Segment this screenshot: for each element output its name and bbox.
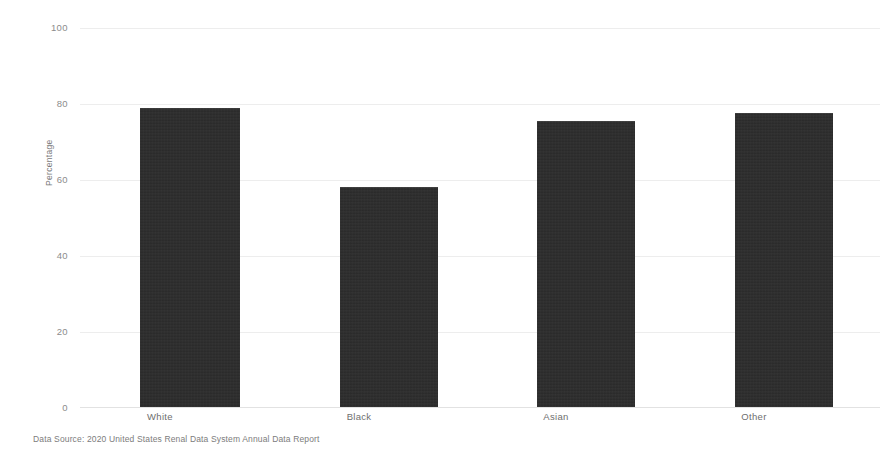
plot-area <box>80 28 880 408</box>
y-tick-label-100: 100 <box>28 23 68 33</box>
data-source-caption: Data Source: 2020 United States Renal Da… <box>33 434 320 444</box>
bar-asian[interactable] <box>537 121 635 407</box>
y-tick-label-20: 20 <box>28 327 68 337</box>
gridline-baseline-0 <box>80 407 880 408</box>
x-tick-label-asian: Asian <box>507 412 605 422</box>
bar-black[interactable] <box>340 187 438 407</box>
bar-other[interactable] <box>735 113 833 407</box>
x-tick-label-black: Black <box>310 412 408 422</box>
x-tick-label-white: White <box>110 412 210 422</box>
bar-chart-figure: 100 80 60 40 20 0 Percentage White Black… <box>0 0 889 452</box>
gridline-100 <box>80 28 880 29</box>
y-tick-label-80: 80 <box>28 99 68 109</box>
y-tick-label-0: 0 <box>28 403 68 413</box>
bar-white[interactable] <box>140 108 240 407</box>
gridline-80 <box>80 104 880 105</box>
x-tick-label-other: Other <box>705 412 803 422</box>
y-tick-label-40: 40 <box>28 251 68 261</box>
y-axis-tick-labels: 100 80 60 40 20 0 <box>20 28 68 408</box>
y-axis-title: Percentage <box>44 140 54 186</box>
